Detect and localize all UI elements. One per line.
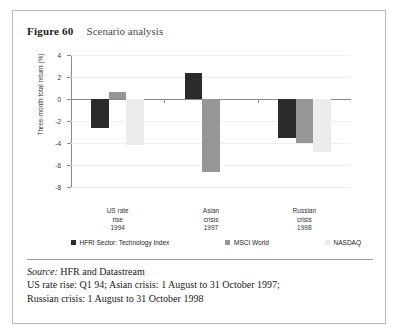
source-line: Source: HFR and Datastream bbox=[27, 265, 375, 278]
y-axis-tick-label: -2 bbox=[55, 118, 61, 125]
bar bbox=[126, 99, 144, 145]
note-line-2: US rate rise: Q1 94; Asian crisis: 1 Aug… bbox=[27, 278, 375, 291]
grid-line bbox=[71, 55, 351, 56]
x-axis-category-label: Russiancrisis1998 bbox=[293, 207, 316, 233]
x-axis-tick bbox=[164, 99, 165, 103]
legend-label: NASDAQ bbox=[334, 239, 361, 246]
source-text: HFR and Datastream bbox=[60, 266, 144, 277]
bar bbox=[109, 92, 127, 99]
figure-card: Figure 60Scenario analysis Three-month t… bbox=[12, 10, 386, 324]
note-line-3: Russian crisis: 1 August to 31 October 1… bbox=[27, 292, 375, 305]
legend-label: MSCI World bbox=[234, 239, 269, 246]
grid-line bbox=[71, 187, 351, 188]
legend-item[interactable]: MSCI World bbox=[225, 239, 268, 246]
legend-swatch-icon bbox=[325, 240, 330, 245]
grid-line bbox=[71, 77, 351, 78]
y-axis-tick-label: -8 bbox=[55, 184, 61, 191]
legend-divider bbox=[27, 259, 373, 260]
y-axis-tick-label: -4 bbox=[55, 140, 61, 147]
legend-swatch-icon bbox=[225, 240, 230, 245]
y-axis-tick: 4 bbox=[67, 55, 71, 56]
y-axis-tick: -6 bbox=[67, 165, 71, 166]
category-label-line: crisis bbox=[203, 216, 219, 225]
legend-swatch-icon bbox=[71, 240, 76, 245]
category-label-line: 1994 bbox=[107, 224, 129, 233]
figure-number: Figure 60 bbox=[27, 25, 74, 37]
bar bbox=[278, 99, 296, 138]
y-axis-label: Three-month total return (%) bbox=[37, 20, 44, 170]
category-label-line: 1998 bbox=[293, 224, 316, 233]
chart-area: Three-month total return (%) 420-2-4-6-8… bbox=[13, 39, 387, 251]
y-axis-tick: -8 bbox=[67, 187, 71, 188]
category-label-line: crisis bbox=[293, 216, 316, 225]
y-axis-tick: -2 bbox=[67, 121, 71, 122]
legend-item[interactable]: NASDAQ bbox=[325, 239, 361, 246]
y-axis-tick: 2 bbox=[67, 77, 71, 78]
bar bbox=[313, 99, 331, 152]
y-axis-tick-label: 2 bbox=[57, 74, 61, 81]
figure-title-text: Scenario analysis bbox=[87, 25, 164, 37]
category-label-line: US rate bbox=[107, 207, 129, 216]
bar bbox=[202, 99, 220, 172]
x-axis-category-label: Asiancrisis1997 bbox=[203, 207, 219, 233]
source-label: Source: bbox=[27, 266, 58, 277]
y-axis-tick-label: -6 bbox=[55, 162, 61, 169]
category-label-line: Asian bbox=[203, 207, 219, 216]
figure-notes: Source: HFR and Datastream US rate rise:… bbox=[27, 265, 375, 305]
legend-label: HFRI Sector: Technology Index bbox=[80, 239, 170, 246]
category-label-line: 1997 bbox=[203, 224, 219, 233]
bar bbox=[91, 99, 109, 128]
chart-legend: HFRI Sector: Technology IndexMSCI WorldN… bbox=[71, 239, 361, 246]
bar bbox=[185, 73, 203, 99]
category-label-line: rise bbox=[107, 216, 129, 225]
plot-area: 420-2-4-6-8US raterise1994Asiancrisis199… bbox=[71, 55, 351, 187]
y-axis-tick-label: 0 bbox=[57, 96, 61, 103]
y-axis-tick-label: 4 bbox=[57, 52, 61, 59]
bar bbox=[296, 99, 314, 143]
figure-title: Figure 60Scenario analysis bbox=[27, 21, 163, 39]
x-axis-category-label: US raterise1994 bbox=[107, 207, 129, 233]
category-label-line: Russian bbox=[293, 207, 316, 216]
legend-item[interactable]: HFRI Sector: Technology Index bbox=[71, 239, 169, 246]
x-axis-tick bbox=[258, 99, 259, 103]
y-axis-tick: -4 bbox=[67, 143, 71, 144]
